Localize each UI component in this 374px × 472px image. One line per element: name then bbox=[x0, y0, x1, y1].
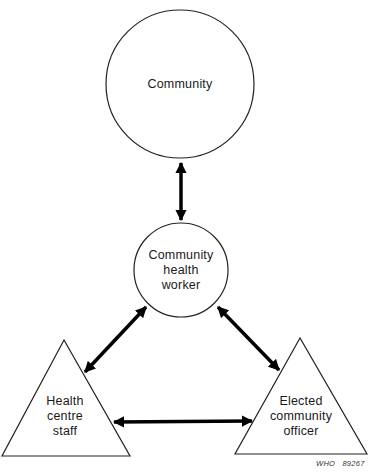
arrow-chw-elected-officer bbox=[218, 307, 279, 370]
community-health-worker-label: Community health worker bbox=[131, 248, 231, 293]
elected-community-officer-label: Elected community officer bbox=[253, 394, 349, 439]
health-centre-staff-label: Health centre staff bbox=[20, 394, 110, 439]
arrow-chw-health-centre-staff bbox=[85, 307, 146, 372]
arrow-health-centre-staff-elected-officer bbox=[114, 421, 252, 422]
diagram-canvas: Community Community health worker Health… bbox=[0, 0, 374, 472]
community-label: Community bbox=[130, 77, 230, 92]
figure-credit: WHO 89267 bbox=[316, 459, 365, 468]
